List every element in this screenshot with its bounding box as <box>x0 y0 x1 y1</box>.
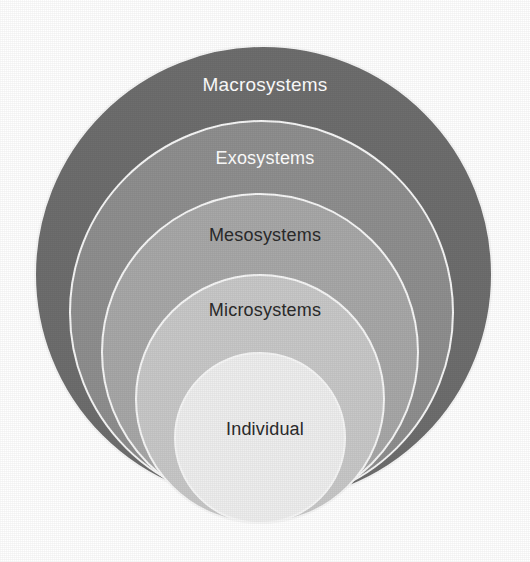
ecological-systems-diagram: Macrosystems Exosystems Mesosystems Micr… <box>0 0 530 562</box>
circle-individual[interactable] <box>174 352 346 524</box>
